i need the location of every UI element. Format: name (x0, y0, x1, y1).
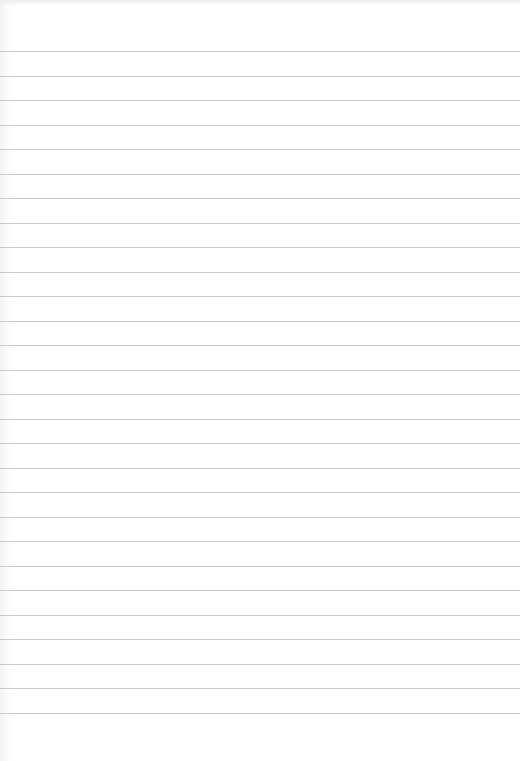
ruled-line (0, 639, 520, 640)
ruled-line (0, 566, 520, 567)
ruled-line (0, 51, 520, 52)
lined-paper-sheet (0, 0, 520, 761)
ruled-line (0, 76, 520, 77)
top-edge-shadow (0, 0, 520, 6)
ruled-line (0, 370, 520, 371)
ruled-line (0, 713, 520, 714)
ruled-line (0, 688, 520, 689)
ruled-line (0, 468, 520, 469)
ruled-line (0, 664, 520, 665)
ruled-line (0, 198, 520, 199)
ruled-line (0, 443, 520, 444)
ruled-line (0, 125, 520, 126)
ruled-line (0, 541, 520, 542)
ruled-line (0, 419, 520, 420)
ruled-line (0, 174, 520, 175)
ruled-line (0, 247, 520, 248)
ruled-line (0, 223, 520, 224)
ruled-line (0, 492, 520, 493)
ruled-line (0, 394, 520, 395)
ruled-line (0, 321, 520, 322)
ruled-line (0, 296, 520, 297)
ruled-line (0, 615, 520, 616)
ruled-line (0, 517, 520, 518)
ruled-line (0, 149, 520, 150)
ruled-line (0, 272, 520, 273)
ruled-line (0, 345, 520, 346)
ruled-line (0, 590, 520, 591)
ruled-line (0, 100, 520, 101)
